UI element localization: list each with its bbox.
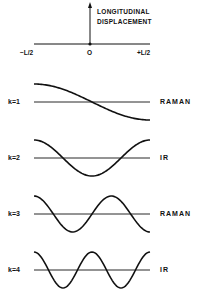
tick-center: O: [87, 50, 92, 57]
arrow-head-icon: [88, 2, 92, 8]
mode-label-k3: k=3: [8, 210, 20, 217]
activity-k3: RAMAN: [160, 210, 191, 217]
mode-label-k4: k=4: [8, 266, 20, 273]
activity-k4: IR: [160, 266, 169, 273]
tick-right: +L/2: [137, 50, 150, 57]
diagram-canvas: [0, 0, 203, 295]
axis-title-line2: DISPLACEMENT: [97, 19, 152, 26]
mode-label-k1: k=1: [8, 98, 20, 105]
mode-label-k2: k=2: [8, 154, 20, 161]
activity-k2: IR: [160, 154, 169, 161]
origin-dot: [88, 42, 91, 45]
activity-k1: RAMAN: [160, 98, 191, 105]
axis-title-line1: LONGITUDINAL: [97, 9, 150, 16]
tick-left: −L/2: [20, 50, 33, 57]
